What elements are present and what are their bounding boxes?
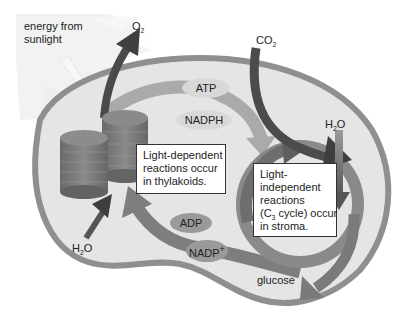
atp-molecule: ATP [182, 78, 230, 98]
o2-label: O2 [132, 20, 144, 33]
light-independent-box: Light- independent reactions (C3 cycle) … [253, 163, 337, 237]
nadp-molecule: NADP+ [186, 240, 228, 262]
grana-stack-front [60, 130, 108, 199]
light-dependent-box: Light-dependent reactions occur in thyla… [136, 144, 226, 194]
glucose-label: glucose [257, 274, 295, 287]
co2-label: CO2 [256, 34, 276, 47]
chloroplast-diagram: energy from sunlight O2 CO2 H2O H2O gluc… [0, 0, 403, 327]
sunlight-label: energy from sunlight [24, 20, 83, 46]
h2o-left-label: H2O [72, 242, 92, 255]
h2o-right-label: H2O [325, 118, 345, 131]
adp-molecule: ADP [170, 213, 212, 233]
nadph-molecule: NADPH [176, 110, 232, 130]
